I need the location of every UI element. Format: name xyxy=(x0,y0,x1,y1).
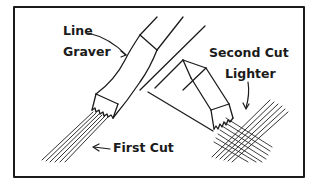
label-lighter: Lighter xyxy=(225,67,276,81)
label-second-cut: Second Cut xyxy=(209,46,289,60)
label-first-cut: First Cut xyxy=(113,141,174,155)
label-graver: Graver xyxy=(63,45,111,59)
crosshatch-first-set xyxy=(212,100,288,162)
line-graver-tool xyxy=(92,17,183,118)
second-graver-tool xyxy=(140,26,233,131)
engraving-diagram: Line Graver First Cut Second Cut Lighter xyxy=(0,0,313,182)
label-line: Line xyxy=(63,24,93,38)
first-cut-lines xyxy=(42,112,108,162)
